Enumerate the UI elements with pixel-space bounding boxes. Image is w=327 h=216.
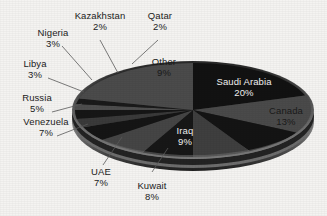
callout-label-uae-pct: 7% (76, 177, 126, 188)
callout-label-russia: Russia 5% (9, 92, 65, 114)
callout-label-kazakhstan-name: Kazakhstan (75, 10, 126, 21)
callout-label-nigeria: Nigeria 3% (24, 27, 82, 49)
callout-label-uae-name: UAE (91, 166, 111, 177)
slice-label-saudi-arabia: Saudi Arabia 20% (202, 76, 286, 98)
slice-label-saudi-arabia-pct: 20% (202, 87, 286, 98)
callout-label-venezuela-pct: 7% (8, 127, 84, 138)
slice-label-canada-name: Canada (269, 105, 303, 116)
callout-label-venezuela-name: Venezuela (23, 116, 68, 127)
callout-label-venezuela: Venezuela 7% (8, 116, 84, 138)
callout-label-kuwait-name: Kuwait (137, 180, 166, 191)
slice-label-iraq: Iraq 9% (163, 125, 207, 147)
callout-label-kuwait-pct: 8% (124, 191, 180, 202)
slice-label-canada: Canada 13% (256, 105, 316, 127)
leader-line-libya (48, 78, 84, 92)
callout-label-russia-name: Russia (22, 92, 52, 103)
slice-label-iraq-name: Iraq (177, 125, 194, 136)
pie-chart: Saudi Arabia 20% Canada 13% Iraq 9% Othe… (0, 0, 327, 216)
callout-label-qatar-pct: 2% (140, 21, 180, 32)
slice-label-other-pct: 9% (142, 67, 186, 78)
callout-label-qatar-name: Qatar (148, 10, 172, 21)
leader-line-kazakhstan (100, 40, 118, 73)
slice-label-other: Other 9% (142, 56, 186, 78)
callout-label-qatar: Qatar 2% (140, 10, 180, 32)
callout-label-libya: Libya 3% (11, 58, 59, 80)
slice-label-other-name: Other (152, 56, 176, 67)
slice-label-saudi-arabia-name: Saudi Arabia (216, 76, 271, 87)
callout-label-nigeria-name: Nigeria (38, 27, 69, 38)
callout-label-russia-pct: 5% (9, 103, 65, 114)
leader-line-nigeria (62, 46, 92, 80)
slice-label-iraq-pct: 9% (163, 136, 207, 147)
callout-label-nigeria-pct: 3% (24, 38, 82, 49)
callout-label-kuwait: Kuwait 8% (124, 180, 180, 202)
callout-label-libya-name: Libya (23, 58, 46, 69)
slice-label-canada-pct: 13% (256, 116, 316, 127)
callout-label-uae: UAE 7% (76, 166, 126, 188)
callout-label-libya-pct: 3% (11, 69, 59, 80)
